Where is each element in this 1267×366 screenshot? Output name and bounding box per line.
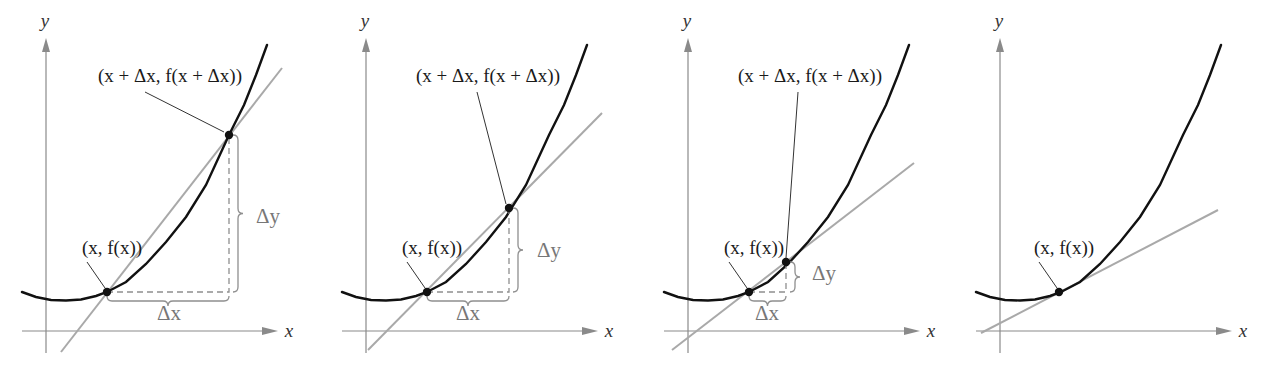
diagram-panel-3: yxΔxΔy(x + Δx, f(x + Δx))(x, f(x)) (664, 10, 936, 353)
point-label: (x, f(x)) (724, 237, 784, 259)
point-x-fx (745, 288, 753, 296)
point-x-plus-delta-x (225, 131, 233, 139)
point-label: (x, f(x)) (1034, 237, 1094, 259)
y-axis-arrow-icon (42, 38, 50, 52)
delta-y-brace (233, 135, 243, 292)
point-delta-leader (786, 92, 798, 258)
tangent-line (981, 210, 1218, 333)
point-delta-leader (477, 92, 506, 204)
diagram-panel-1: yxΔxΔy(x + Δx, f(x + Δx))(x, f(x)) (22, 10, 294, 353)
point-x-fx (423, 288, 431, 296)
secant-to-tangent-figure: yxΔxΔy(x + Δx, f(x + Δx))(x, f(x))yxΔxΔy… (0, 0, 1267, 366)
function-curve (976, 45, 1221, 301)
y-axis-label: y (993, 10, 1004, 31)
x-axis-label: x (284, 320, 294, 341)
y-axis-label: y (681, 10, 692, 31)
y-axis-label: y (359, 10, 370, 31)
point-label: (x, f(x)) (402, 237, 462, 259)
point-x-plus-delta-x (782, 258, 790, 266)
diagram-panel-2: yxΔxΔy(x + Δx, f(x + Δx))(x, f(x)) (342, 10, 614, 353)
delta-y-brace (513, 208, 523, 292)
point-label: (x, f(x)) (82, 237, 142, 259)
y-axis-arrow-icon (684, 38, 692, 52)
delta-y-label: Δy (537, 238, 562, 262)
point-leader (729, 262, 747, 288)
x-axis-label: x (1238, 320, 1248, 341)
x-axis-arrow-icon (904, 327, 920, 335)
delta-x-label: Δx (157, 301, 182, 325)
point-x-plus-delta-x (505, 204, 513, 212)
point-leader (407, 262, 425, 288)
delta-y-brace (790, 262, 800, 292)
y-axis-label: y (39, 10, 50, 31)
x-axis-label: x (926, 320, 936, 341)
point-delta-label: (x + Δx, f(x + Δx)) (98, 65, 242, 87)
point-delta-label: (x + Δx, f(x + Δx)) (738, 65, 882, 87)
delta-y-label: Δy (812, 261, 837, 285)
x-axis-arrow-icon (582, 327, 598, 335)
point-x-fx (103, 288, 111, 296)
secant-line (672, 163, 914, 350)
point-leader (1039, 262, 1057, 288)
x-axis-arrow-icon (262, 327, 278, 335)
point-leader (87, 262, 105, 288)
point-x-fx (1055, 288, 1063, 296)
y-axis-arrow-icon (362, 38, 370, 52)
point-delta-label: (x + Δx, f(x + Δx)) (416, 65, 560, 87)
x-axis-arrow-icon (1216, 327, 1232, 335)
delta-y-label: Δy (256, 204, 281, 228)
x-axis-label: x (604, 320, 614, 341)
y-axis-arrow-icon (996, 38, 1004, 52)
delta-x-label: Δx (456, 301, 481, 325)
point-delta-leader (145, 92, 224, 132)
diagram-panel-4: yx(x, f(x)) (976, 10, 1248, 353)
secant-line (368, 113, 602, 350)
delta-x-label: Δx (755, 301, 780, 325)
